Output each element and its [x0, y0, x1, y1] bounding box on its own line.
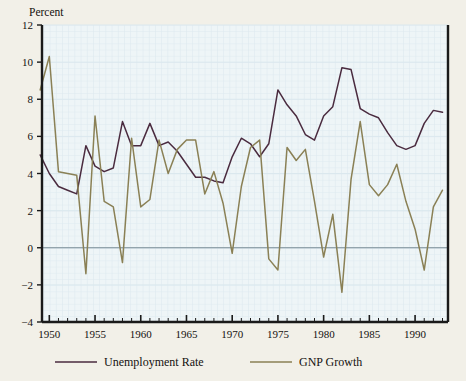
y-tick-label: 12: [22, 19, 33, 31]
y-tick-label: 8: [28, 93, 34, 105]
x-tick-label: 1960: [130, 328, 153, 340]
legend-label-gnp-growth: GNP Growth: [299, 355, 362, 369]
x-tick-label: 1955: [84, 328, 107, 340]
x-tick-label: 1990: [404, 328, 427, 340]
y-axis-label-text: Percent: [29, 6, 64, 18]
x-tick-label: 1985: [358, 328, 381, 340]
y-tick-label: 6: [28, 130, 34, 142]
y-tick-label: −4: [21, 316, 33, 328]
x-tick-label: 1975: [267, 328, 290, 340]
percent-line-chart: Percent −4−2024681012 195019551960196519…: [0, 0, 466, 381]
x-tick-label: 1965: [175, 328, 198, 340]
y-tick-label: 10: [22, 56, 34, 68]
y-axis-label: Percent: [29, 6, 64, 18]
x-tick-label: 1980: [313, 328, 336, 340]
y-tick-label: −2: [21, 279, 33, 291]
y-tick-label: 2: [28, 205, 34, 217]
x-tick-label: 1970: [221, 328, 244, 340]
y-tick-label: 4: [28, 168, 34, 180]
x-tick-label: 1950: [38, 328, 61, 340]
figure: Percent −4−2024681012 195019551960196519…: [0, 0, 466, 381]
legend-label-unemployment-rate: Unemployment Rate: [104, 355, 204, 369]
y-tick-label: 0: [28, 242, 34, 254]
